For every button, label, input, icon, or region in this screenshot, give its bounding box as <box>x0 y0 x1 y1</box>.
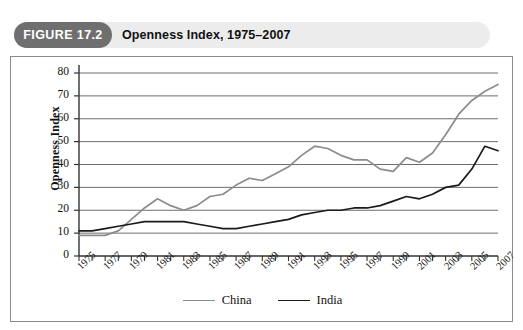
series-line-china <box>79 84 498 235</box>
y-tick-label: 50 <box>47 134 69 146</box>
legend-entry-india: India <box>278 293 343 308</box>
legend-swatch-china <box>183 300 215 301</box>
y-tick-label: 30 <box>47 179 69 191</box>
y-tick-label: 10 <box>47 225 69 237</box>
y-tick-label: 0 <box>47 248 69 260</box>
legend-label: India <box>317 293 343 308</box>
y-tick-label: 40 <box>47 157 69 169</box>
figure-title: Openness Index, 1975–2007 <box>122 22 291 48</box>
chart-legend: ChinaIndia <box>11 293 514 308</box>
line-chart-canvas <box>11 57 514 323</box>
axis-lines-group <box>74 65 498 256</box>
series-lines-group <box>79 84 498 235</box>
legend-entry-china: China <box>183 293 252 308</box>
y-tick-label: 20 <box>47 202 69 214</box>
y-tick-label: 70 <box>47 88 69 100</box>
legend-label: China <box>222 293 252 308</box>
chart-frame: Openness Index 80706050403020100 1975197… <box>10 56 513 322</box>
figure-container: FIGURE 17.2 Openness Index, 1975–2007 Op… <box>0 0 523 330</box>
series-line-india <box>79 146 498 231</box>
figure-number-badge: FIGURE 17.2 <box>14 22 112 48</box>
legend-swatch-india <box>278 300 310 301</box>
y-tick-label: 80 <box>47 65 69 77</box>
y-tick-label: 60 <box>47 111 69 123</box>
gridlines-group <box>79 73 498 233</box>
